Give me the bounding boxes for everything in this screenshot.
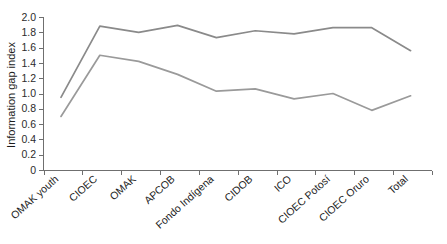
x-category-label: OMAK bbox=[107, 173, 138, 203]
y-tick-label: 1.8 bbox=[21, 26, 36, 38]
x-category-label: Total bbox=[385, 173, 410, 197]
x-axis-category-labels: OMAK youthCIOECOMAKAPCOBFondo IndígenaCI… bbox=[8, 172, 410, 230]
information-gap-index-chart: Information gap index 00.20.40.60.81.01.… bbox=[0, 0, 447, 244]
y-tick-label: 1.0 bbox=[21, 87, 36, 99]
x-category-label: CIDOB bbox=[222, 173, 255, 204]
y-tick-label: 0 bbox=[30, 164, 36, 176]
y-axis-title-group: Information gap index bbox=[5, 42, 17, 148]
y-tick-label: 1.2 bbox=[21, 72, 36, 84]
x-category-label: ICO bbox=[272, 173, 294, 194]
series-line-upper bbox=[61, 25, 411, 97]
series-line-lower bbox=[61, 55, 411, 116]
y-tick-label: 2.0 bbox=[21, 11, 36, 23]
chart-canvas: Information gap index 00.20.40.60.81.01.… bbox=[0, 0, 447, 244]
y-axis-ticks: 00.20.40.60.81.01.21.41.61.82.0 bbox=[21, 11, 43, 176]
x-axis-ticks bbox=[44, 171, 433, 176]
y-tick-label: 1.6 bbox=[21, 41, 36, 53]
y-axis-title: Information gap index bbox=[5, 42, 17, 148]
y-tick-label: 0.4 bbox=[21, 133, 36, 145]
x-category-label: APCOB bbox=[142, 173, 177, 207]
y-tick-label: 0.2 bbox=[21, 148, 36, 160]
y-tick-label: 0.6 bbox=[21, 118, 36, 130]
data-series-group bbox=[61, 25, 411, 116]
y-tick-label: 0.8 bbox=[21, 102, 36, 114]
x-category-label: CIOEC bbox=[66, 172, 99, 203]
y-tick-label: 1.4 bbox=[21, 57, 36, 69]
x-category-label: OMAK youth bbox=[8, 172, 60, 221]
